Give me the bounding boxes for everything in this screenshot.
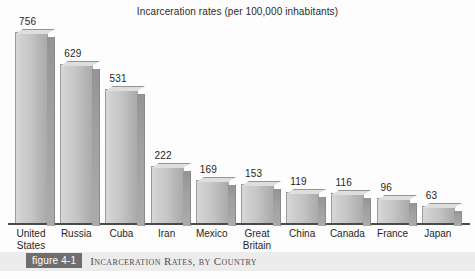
bar-front-face xyxy=(286,192,319,223)
bar-side-face xyxy=(273,189,281,226)
bar-value-label: 153 xyxy=(245,168,262,179)
bar-top-face xyxy=(331,190,371,195)
bar-value-label: 96 xyxy=(381,182,393,193)
category-label-iran: Iran xyxy=(142,228,192,240)
bar-value-label: 222 xyxy=(155,150,172,161)
bar-top-face xyxy=(377,195,417,200)
bar-value-label: 531 xyxy=(109,73,126,84)
category-label-france: France xyxy=(368,228,418,240)
bar-top-face xyxy=(151,163,191,168)
bar-top-face xyxy=(105,86,145,91)
bar-side-face xyxy=(409,203,417,226)
figure-container: Incarceration rates (per 100,000 inhabit… xyxy=(0,0,475,279)
figure-caption: figure 4-1 Incarceration Rates, by Count… xyxy=(26,253,257,268)
bar-side-face xyxy=(363,198,371,226)
bar-side-face xyxy=(47,37,55,226)
bar-front-face xyxy=(331,193,364,223)
category-label-cuba: Cuba xyxy=(96,228,146,240)
bar-value-label: 629 xyxy=(64,48,81,59)
bar-top-face xyxy=(286,189,326,194)
bar-front-face xyxy=(15,32,48,223)
bar-front-face xyxy=(422,206,455,223)
bar-side-face xyxy=(228,185,236,226)
bar-side-face xyxy=(92,69,100,226)
bar-front-face xyxy=(60,64,93,223)
bar-front-face xyxy=(377,198,410,223)
bar-value-label: 756 xyxy=(19,16,36,27)
bar-value-label: 116 xyxy=(335,177,352,188)
bar-side-face xyxy=(454,211,462,226)
bar-front-face xyxy=(241,184,274,223)
bar-value-label: 119 xyxy=(290,176,307,187)
category-label-row: United StatesRussiaCubaIranMexicoGreat B… xyxy=(0,228,475,254)
x-axis-line xyxy=(8,223,470,225)
bar-side-face xyxy=(183,171,191,226)
bar-top-face xyxy=(422,203,462,208)
category-label-china: China xyxy=(277,228,327,240)
bar-side-face xyxy=(318,197,326,226)
bar-top-face xyxy=(15,29,55,34)
bar-top-face xyxy=(241,181,281,186)
category-label-mexico: Mexico xyxy=(187,228,237,240)
bar-value-label: 169 xyxy=(200,164,217,175)
bar-top-face xyxy=(196,177,236,182)
figure-number-tag: figure 4-1 xyxy=(26,253,82,268)
plot-area: 7566295312221691531191169663 xyxy=(0,0,475,226)
category-label-united-states: United States xyxy=(6,228,56,251)
category-label-russia: Russia xyxy=(51,228,101,240)
bar-front-face xyxy=(151,166,184,223)
bar-value-label: 63 xyxy=(426,190,438,201)
category-label-japan: Japan xyxy=(413,228,463,240)
bar-side-face xyxy=(137,94,145,226)
bar-front-face xyxy=(105,89,138,223)
category-label-canada: Canada xyxy=(322,228,372,240)
category-label-great-britain: Great Britain xyxy=(232,228,282,251)
bar-top-face xyxy=(60,61,100,66)
bar-front-face xyxy=(196,180,229,223)
caption-title: Incarceration Rates, by Country xyxy=(90,255,257,267)
